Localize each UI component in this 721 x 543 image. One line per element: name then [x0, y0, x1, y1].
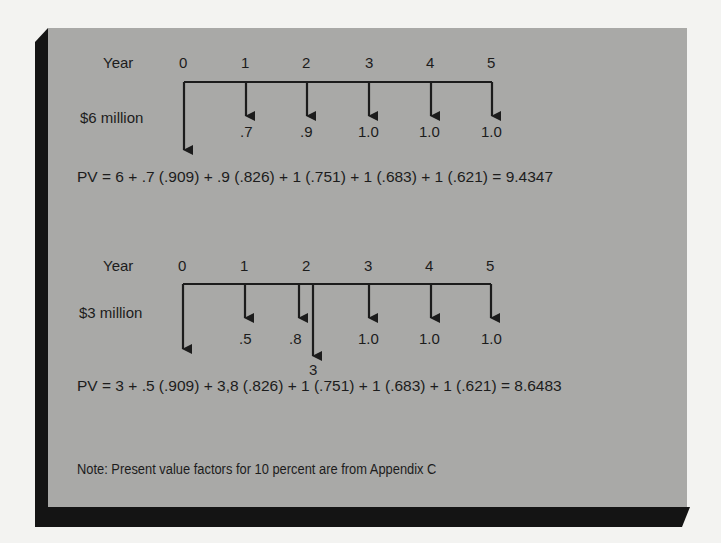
cash-flow-3: 1.0	[358, 331, 379, 346]
cash-flow-1: .5	[239, 331, 252, 346]
year2-additional-outlay: 3	[309, 362, 317, 377]
cash-flow-1: .7	[240, 124, 253, 139]
cash-flow-4: 1.0	[419, 331, 440, 346]
year-2: 2	[302, 55, 310, 70]
year-0: 0	[179, 55, 187, 70]
cash-flow-3: 1.0	[358, 124, 379, 139]
year-0: 0	[178, 258, 186, 273]
year-5: 5	[487, 55, 495, 70]
year-3: 3	[364, 258, 372, 273]
cash-flow-4: 1.0	[419, 124, 440, 139]
cash-flow-2: .8	[289, 331, 302, 346]
year-1: 1	[240, 258, 248, 273]
year-4: 4	[425, 258, 433, 273]
year-4: 4	[426, 55, 434, 70]
pv-equation-2: PV = 3 + .5 (.909) + 3,8 (.826) + 1 (.75…	[77, 378, 562, 394]
investment-label-1: $6 million	[80, 110, 143, 125]
year-label-1: Year	[103, 55, 133, 70]
investment-label-2: $3 million	[79, 305, 142, 320]
pv-equation-1: PV = 6 + .7 (.909) + .9 (.826) + 1 (.751…	[77, 169, 553, 185]
year-1: 1	[241, 55, 249, 70]
cash-flow-5: 1.0	[481, 331, 502, 346]
year-label-2: Year	[103, 258, 133, 273]
year-2: 2	[302, 258, 310, 273]
cash-flow-2: .9	[300, 124, 313, 139]
cash-flow-5: 1.0	[481, 124, 502, 139]
year-3: 3	[365, 55, 373, 70]
footnote: Note: Present value factors for 10 perce…	[77, 462, 436, 476]
year-5: 5	[486, 258, 494, 273]
